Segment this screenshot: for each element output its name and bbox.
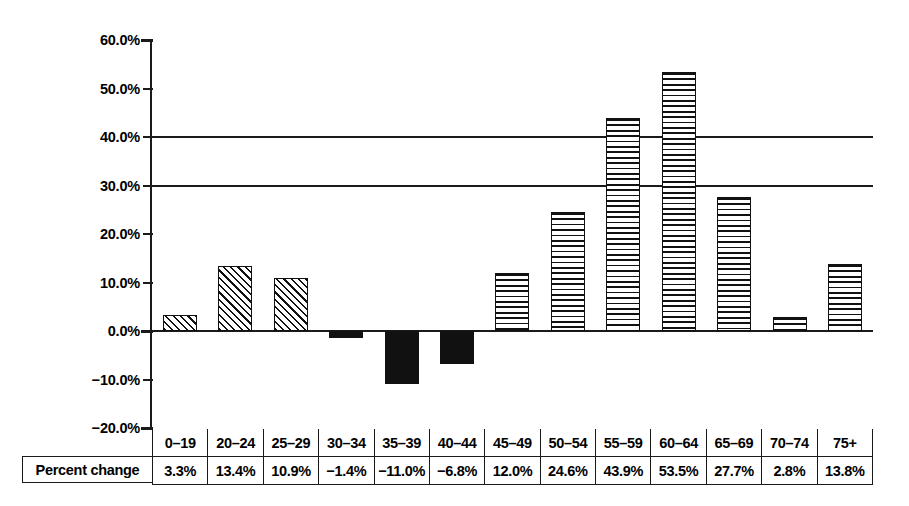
table-header-cell: 60–64 [651, 429, 706, 457]
data-table: 0–1920–2425–2930–3435–3940–4445–4950–545… [152, 429, 873, 485]
table-header-cell: 0–19 [153, 429, 208, 457]
table-value-cell: −11.0% [374, 457, 429, 485]
bar-slot [818, 40, 873, 428]
table-header-cell: 75+ [817, 429, 873, 457]
table-value-cell: 53.5% [651, 457, 706, 485]
bar [440, 331, 474, 364]
table-value-cell: 2.8% [762, 457, 817, 485]
y-axis-tick-label: 50.0% [100, 81, 140, 97]
table-value-cell: 13.4% [208, 457, 263, 485]
bar-slot [707, 40, 762, 428]
y-axis-tick-label: 10.0% [100, 275, 140, 291]
table-value-cell: 10.9% [263, 457, 318, 485]
table-header-cell: 30–34 [319, 429, 374, 457]
table-header-cell: 20–24 [208, 429, 263, 457]
bar [662, 72, 696, 331]
table-header-cell: 50–54 [540, 429, 595, 457]
bar-slot [263, 40, 318, 428]
y-axis-tick-label: 60.0% [100, 32, 140, 48]
table-value-cell: 3.3% [153, 457, 208, 485]
table-value-cell: 43.9% [596, 457, 651, 485]
table-header-row: 0–1920–2425–2930–3435–3940–4445–4950–545… [153, 429, 873, 457]
bar-slot [318, 40, 373, 428]
y-axis-tick-label: −10.0% [92, 372, 140, 388]
table-header-cell: 35–39 [374, 429, 429, 457]
table-value-cell: 13.8% [817, 457, 873, 485]
bar [218, 266, 252, 331]
bar [329, 331, 363, 338]
table-value-row: 3.3%13.4%10.9%−1.4%−11.0%−6.8%12.0%24.6%… [153, 457, 873, 485]
bar-slot [485, 40, 540, 428]
table-header-cell: 55–59 [596, 429, 651, 457]
table-header-cell: 25–29 [263, 429, 318, 457]
bar [717, 197, 751, 331]
y-axis-tick-label: 20.0% [100, 226, 140, 242]
bar [551, 212, 585, 331]
table-header-cell: 45–49 [485, 429, 540, 457]
bar-slot [374, 40, 429, 428]
table-value-cell: −1.4% [319, 457, 374, 485]
table-header-cell: 40–44 [429, 429, 484, 457]
table-value-cell: 12.0% [485, 457, 540, 485]
table-header-cell: 65–69 [706, 429, 761, 457]
bar [606, 118, 640, 331]
bar [495, 273, 529, 331]
table-row-label: Percent change [22, 456, 152, 483]
bar-slot [651, 40, 706, 428]
bar-slot [152, 40, 207, 428]
bar [385, 331, 419, 384]
y-axis-tick-label: 40.0% [100, 129, 140, 145]
bar-slot [540, 40, 595, 428]
plot-area: 60.0%50.0%40.0%30.0%20.0%10.0%0.0%−10.0%… [152, 40, 873, 428]
table-value-cell: 27.7% [706, 457, 761, 485]
bar [773, 317, 807, 331]
table-value-cell: 24.6% [540, 457, 595, 485]
bar-slot [429, 40, 484, 428]
bar [274, 278, 308, 331]
bar [163, 315, 197, 331]
bar-chart-figure: 60.0%50.0%40.0%30.0%20.0%10.0%0.0%−10.0%… [0, 0, 909, 506]
bar [828, 264, 862, 331]
bar-slot [762, 40, 817, 428]
y-axis-tick-label: 30.0% [100, 178, 140, 194]
y-axis-tick-label: 0.0% [108, 323, 140, 339]
y-axis-tick-label: −20.0% [92, 420, 140, 436]
bar-series [152, 40, 873, 428]
bar-slot [596, 40, 651, 428]
table-header-cell: 70–74 [762, 429, 817, 457]
bar-slot [207, 40, 262, 428]
table-value-cell: −6.8% [429, 457, 484, 485]
